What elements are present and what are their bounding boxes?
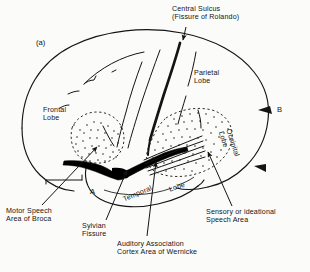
callout-central-sulcus: Central Sulcus (Fissure of Rolando)	[172, 5, 239, 22]
callout-auditory-association: Auditory Association Cortex Area of Wern…	[117, 240, 197, 257]
callout-sensory-speech-area: Sensory or ideational Speech Area	[206, 208, 276, 225]
lobe-label-frontal: Frontal Lobe	[43, 106, 66, 123]
leader-motor-speech	[42, 147, 97, 205]
broca-area-stipple	[71, 112, 124, 163]
callout-sylvian-fissure: Sylvian Fissure	[82, 222, 106, 239]
lobe-label-parietal: Parietal Lobe	[194, 69, 219, 86]
inferior-sulci	[103, 110, 201, 146]
callout-motor-speech-area: Motor Speech Area of Broca	[6, 207, 52, 224]
frontal-lower-contour	[22, 128, 74, 191]
central-sulcus-line	[148, 43, 180, 155]
marker-point-a: A	[90, 187, 95, 196]
brain-anatomy-figure: Central Sulcus (Fissure of Rolando) (a) …	[0, 0, 310, 272]
superior-frontal-sulcus	[84, 52, 144, 84]
frontal-sulci-ticks	[60, 70, 116, 108]
leader-auditory-association	[147, 162, 156, 236]
brain-diagram-svg	[0, 0, 310, 272]
postcentral-sulcus	[178, 52, 196, 124]
figure-part-marker: (a)	[36, 38, 45, 47]
marker-a-bracket	[46, 175, 82, 184]
marker-point-b: B	[277, 105, 282, 114]
